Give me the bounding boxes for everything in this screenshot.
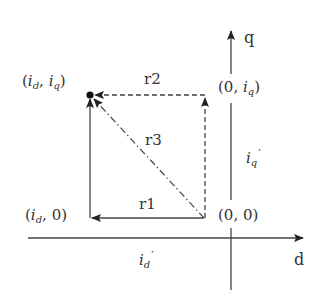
target-point-dot	[86, 91, 93, 98]
d-point-label: (id, 0)	[25, 208, 67, 225]
iq-prime-label: iq′	[246, 148, 261, 168]
diagram-lines	[0, 0, 321, 307]
target-point-label: (id, iq)	[22, 74, 66, 91]
r2-label: r2	[144, 72, 161, 87]
d-axis-label: d	[294, 252, 304, 268]
q-axis-label: q	[244, 30, 254, 46]
r3-label: r3	[145, 133, 162, 148]
r1-label: r1	[139, 197, 156, 212]
origin-label: (0, 0)	[218, 208, 258, 223]
q-point-label: (0, iq)	[218, 80, 260, 97]
id-prime-label: id′	[139, 250, 154, 270]
dq-vector-diagram: q d (id, iq) (0, iq) (0, 0) (id, 0) r2 r…	[0, 0, 321, 307]
